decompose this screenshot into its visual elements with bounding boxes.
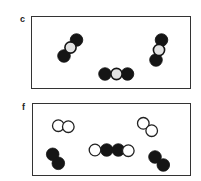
molecule-diagonal-triatomic — [58, 34, 83, 63]
white-atom-icon — [65, 42, 76, 53]
open-atom-icon — [123, 145, 135, 157]
molecule-tetratomic-chain — [89, 144, 134, 157]
molecule-layer — [0, 0, 201, 181]
black-atom-icon — [121, 68, 134, 81]
black-atom-icon — [100, 144, 113, 157]
molecule-white-diatomic-right — [138, 118, 158, 137]
molecule-white-diatomic-left — [53, 120, 75, 133]
molecule-black-diatomic-left — [46, 148, 64, 170]
molecule-vertical-triatomic — [150, 34, 168, 67]
open-atom-icon — [63, 121, 75, 133]
white-atom-icon — [111, 68, 122, 79]
molecule-horizontal-triatomic — [99, 68, 134, 81]
black-atom-icon — [157, 159, 170, 172]
molecule-black-diatomic-right — [149, 151, 170, 172]
black-atom-icon — [99, 68, 112, 81]
open-atom-icon — [89, 144, 101, 156]
black-atom-icon — [52, 157, 65, 170]
white-atom-icon — [153, 44, 164, 55]
open-atom-icon — [146, 125, 158, 137]
